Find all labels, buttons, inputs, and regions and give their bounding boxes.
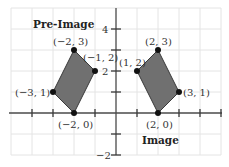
- point-preimage-a: [71, 47, 77, 53]
- label-preimage-d: (−2, 0): [58, 119, 93, 130]
- point-image-d: [155, 110, 161, 116]
- point-image-a: [155, 47, 161, 53]
- label-preimage-c: (−3, 1): [15, 87, 50, 98]
- label-preimage-b: (−1, 2): [83, 52, 118, 63]
- image-title: Image: [142, 134, 179, 146]
- point-image-c: [176, 89, 182, 95]
- label-image-c: (3, 1): [183, 87, 210, 98]
- y-tick-label-2: 2: [102, 66, 108, 77]
- label-image-b: (1, 2): [119, 57, 146, 68]
- y-tick-label-4: 4: [102, 24, 108, 35]
- point-preimage-d: [71, 110, 77, 116]
- label-image-a: (2, 3): [145, 36, 172, 47]
- point-image-b: [134, 68, 140, 74]
- point-preimage-b: [92, 68, 98, 74]
- point-preimage-c: [50, 89, 56, 95]
- label-image-d: (2, 0): [146, 119, 173, 130]
- preimage-title: Pre-Image: [33, 18, 95, 30]
- label-preimage-a: (−2, 3): [53, 36, 88, 47]
- coordinate-plane: 4 2 −2 Pre-Image Image (−2, 3) (−1, 2) (…: [0, 0, 229, 167]
- y-tick-label-neg2: −2: [96, 150, 111, 161]
